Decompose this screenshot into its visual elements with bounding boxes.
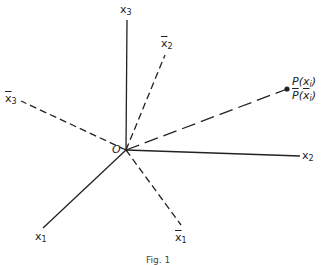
position-vector: [126, 89, 287, 150]
axis-x1: [43, 150, 126, 228]
figure-caption: Fig. 1: [146, 255, 170, 265]
label-x2: x2: [302, 150, 314, 163]
label-point-pbar: P(xi): [292, 90, 316, 103]
axis-x1bar: [126, 150, 181, 225]
label-x1bar: x1: [175, 232, 187, 245]
point-p: [284, 86, 289, 91]
label-x3: x3: [120, 4, 132, 17]
label-x2bar: x2: [161, 38, 173, 51]
axis-x3bar: [21, 101, 126, 150]
label-x3bar: x3: [5, 93, 17, 106]
label-point-p: P(xi): [292, 76, 316, 89]
axis-x3: [126, 20, 127, 150]
axis-x2: [126, 150, 300, 156]
origin-label: O: [112, 144, 121, 155]
label-x1: x1: [35, 231, 47, 244]
axis-x2bar: [126, 55, 165, 150]
